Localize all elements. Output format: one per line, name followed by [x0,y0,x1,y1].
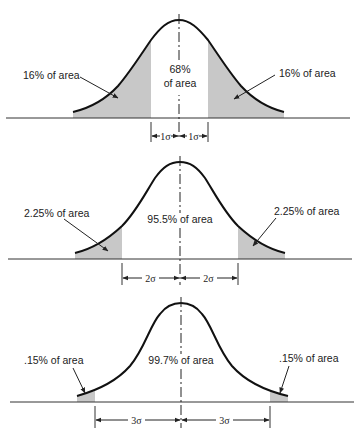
panel-one-sigma: 1σ 1σ 68% of area 16% of area 16% of are… [6,14,350,142]
center-area-label-line2: of area [164,77,197,89]
left-tail-label: 16% of area [23,69,80,81]
right-tail-label: 16% of area [279,67,336,79]
right-tail-label: 2.25% of area [274,205,340,217]
right-tail-label: .15% of area [279,352,339,364]
panel-three-sigma: 3σ 3σ 99.7% of area .15% of area .15% of… [10,297,354,428]
right-tail-shade [208,40,284,118]
bell-curve [77,303,288,396]
center-area-label: 68% [169,63,190,75]
center-area-label: 95.5% of area [147,213,213,225]
left-pointer-arrow [73,368,85,393]
sigma-left-label: 2σ [145,273,156,284]
sigma-right-label: 2σ [203,273,214,284]
sigma-left-label: 3σ [131,415,142,426]
left-tail-shade [73,40,151,118]
panel-two-sigma: 2σ 2σ 95.5% of area 2.25% of area 2.25% … [8,156,352,285]
sigma-right-label: 1σ [188,131,199,142]
left-pointer-arrow [80,77,118,98]
sigma-right-label: 3σ [219,415,230,426]
left-tail-label: 2.25% of area [24,207,90,219]
left-pointer-arrow [64,219,108,251]
sigma-left-label: 1σ [160,131,171,142]
right-pointer-arrow [253,218,276,246]
left-tail-label: .15% of area [24,354,84,366]
normal-distribution-diagram: 1σ 1σ 68% of area 16% of area 16% of are… [0,0,362,440]
right-pointer-arrow [280,366,289,393]
center-area-label: 99.7% of area [148,354,214,366]
